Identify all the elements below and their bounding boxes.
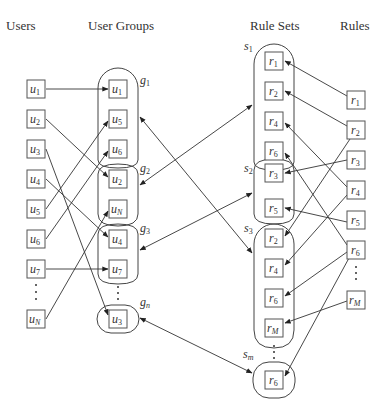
user-u5[interactable]: u5 xyxy=(27,200,45,218)
s1-member-r1[interactable]: r1 xyxy=(265,52,283,70)
group-label-gn: gn xyxy=(140,295,150,310)
rulesets-ellipsis xyxy=(273,345,275,359)
users-column: u1 u2 u3 u4 u5 u6 u7 uN xyxy=(27,80,45,328)
s2-member-r5[interactable]: r5 xyxy=(265,199,283,217)
header-users: Users xyxy=(6,18,36,33)
rules-ellipsis xyxy=(355,266,357,280)
rule-r1[interactable]: r1 xyxy=(347,91,365,109)
s1-member-r2[interactable]: r2 xyxy=(265,82,283,100)
ruleset-label-s1: s1 xyxy=(244,39,253,54)
group-label-g3: g3 xyxy=(140,221,150,236)
g1-member-u5[interactable]: u5 xyxy=(109,110,127,128)
users-ellipsis xyxy=(35,284,37,300)
s1-member-r4[interactable]: r4 xyxy=(265,112,283,130)
rbac-diagram: Users User Groups Rule Sets Rules g1 g2 … xyxy=(0,0,390,407)
rule-rM[interactable]: rM xyxy=(347,291,365,309)
group-label-g2: g2 xyxy=(140,161,150,176)
header-rule-sets: Rule Sets xyxy=(250,18,299,33)
s3-member-r4[interactable]: r4 xyxy=(265,259,283,277)
s2-member-r3[interactable]: r3 xyxy=(265,164,283,182)
g3-member-u4[interactable]: u4 xyxy=(109,230,127,248)
rule-r2[interactable]: r2 xyxy=(347,121,365,139)
s3-member-rM[interactable]: rM xyxy=(265,319,283,337)
g3-member-u7[interactable]: u7 xyxy=(109,260,127,278)
s3-member-r6[interactable]: r6 xyxy=(265,289,283,307)
user-u3[interactable]: u3 xyxy=(27,140,45,158)
user-group-edges xyxy=(46,89,108,319)
ruleset-label-s2: s2 xyxy=(244,161,253,176)
user-uN[interactable]: uN xyxy=(27,310,45,328)
user-u6[interactable]: u6 xyxy=(27,230,45,248)
user-u1[interactable]: u1 xyxy=(27,80,45,98)
s1-member-r6[interactable]: r6 xyxy=(265,142,283,160)
sm-member-r6[interactable]: r6 xyxy=(265,371,283,389)
user-u7[interactable]: u7 xyxy=(27,260,45,278)
user-u2[interactable]: u2 xyxy=(27,110,45,128)
rules-column: r1 r2 r3 r4 r5 r6 rM xyxy=(347,91,365,309)
ruleset-label-sm: sm xyxy=(243,347,254,362)
g1-member-u1[interactable]: u1 xyxy=(109,80,127,98)
rule-r5[interactable]: r5 xyxy=(347,211,365,229)
rule-r3[interactable]: r3 xyxy=(347,151,365,169)
rule-ruleset-edges xyxy=(285,61,350,376)
gn-member-u3[interactable]: u3 xyxy=(109,310,127,328)
g2-member-uN[interactable]: uN xyxy=(109,200,127,218)
header-user-groups: User Groups xyxy=(88,18,154,33)
g1-member-u6[interactable]: u6 xyxy=(109,140,127,158)
rule-r4[interactable]: r4 xyxy=(347,181,365,199)
group-label-g1: g1 xyxy=(140,73,150,88)
group-ruleset-edges xyxy=(140,105,252,373)
rule-set-members: r1 r2 r4 r6 r3 r5 r2 r4 r6 rM r6 xyxy=(265,52,283,389)
s3-member-r2[interactable]: r2 xyxy=(265,229,283,247)
user-u4[interactable]: u4 xyxy=(27,170,45,188)
rule-r6[interactable]: r6 xyxy=(347,241,365,259)
groups-ellipsis xyxy=(117,286,119,300)
user-group-members: u1 u5 u6 u2 uN u4 u7 u3 xyxy=(109,80,127,328)
ruleset-label-s3: s3 xyxy=(244,221,253,236)
g2-member-u2[interactable]: u2 xyxy=(109,170,127,188)
header-rules: Rules xyxy=(340,18,370,33)
